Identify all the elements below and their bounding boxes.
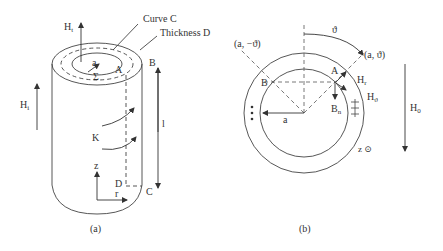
plus-marks bbox=[351, 99, 359, 117]
label-current-k: K bbox=[92, 132, 100, 143]
label-point-a: A bbox=[115, 64, 123, 75]
figure-a-labels: Ht Curve C Thickness D B A a Σ Hi K l z … bbox=[20, 13, 210, 235]
label-coord-pos: (a, ϑ) bbox=[364, 49, 385, 61]
label-sigma: Σ bbox=[93, 71, 99, 82]
figure-b-labels: ϑ (a, −ϑ) (a, ϑ) A B Hr Hϑ Bn a z ⊙ H0 (… bbox=[234, 24, 421, 235]
label-curve-c: Curve C bbox=[143, 13, 177, 24]
label-point-c: C bbox=[146, 186, 153, 197]
label-h-i: Hi bbox=[20, 99, 29, 112]
label-axis-z: z bbox=[94, 160, 99, 171]
label-radius-a: a bbox=[283, 114, 288, 125]
label-coord-neg: (a, −ϑ) bbox=[234, 38, 261, 50]
diagram-canvas: Ht Curve C Thickness D B A a Σ Hi K l z … bbox=[0, 0, 443, 251]
caption-a: (a) bbox=[90, 223, 101, 235]
label-point-a: A bbox=[331, 65, 339, 76]
label-theta: ϑ bbox=[332, 24, 337, 35]
figure-a-cylinder bbox=[52, 24, 157, 214]
label-h-theta: Hϑ bbox=[367, 91, 378, 104]
figure-b-dots bbox=[251, 106, 254, 121]
caption-b: (b) bbox=[299, 223, 311, 235]
label-point-b: B bbox=[261, 77, 268, 88]
label-z-out: z ⊙ bbox=[358, 144, 372, 154]
label-b-n: Bn bbox=[331, 103, 342, 116]
label-h-t: Ht bbox=[64, 21, 73, 34]
label-axis-r: r bbox=[115, 188, 119, 199]
label-length-l: l bbox=[162, 118, 165, 129]
label-radius-a: a bbox=[92, 57, 97, 68]
label-point-b: B bbox=[149, 57, 156, 68]
label-thickness-d: Thickness D bbox=[160, 27, 210, 38]
label-h-r: Hr bbox=[357, 74, 367, 87]
label-h-0: H0 bbox=[410, 102, 421, 115]
